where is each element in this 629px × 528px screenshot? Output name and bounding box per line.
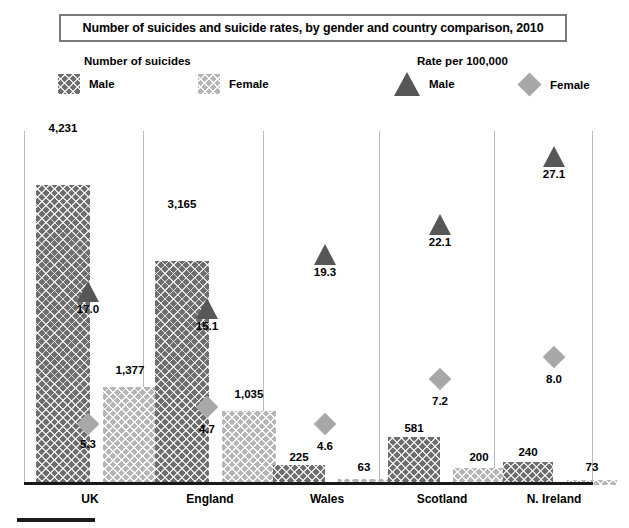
rate-label-male-wales: 19.3 [314, 266, 336, 278]
bar-female-swatch-icon [198, 74, 220, 94]
bar-label-male-scotland: 581 [404, 422, 423, 434]
diamond-female-n-ireland[interactable] [543, 346, 566, 369]
legend-label-rate-male: Male [429, 78, 455, 90]
legend-heading-counts: Number of suicides [84, 55, 191, 67]
rate-label-female-uk: 5.3 [80, 438, 96, 450]
legend-label-count-male: Male [89, 78, 115, 90]
bar-label-female-scotland: 200 [469, 451, 488, 463]
rate-label-male-n-ireland: 27.1 [543, 168, 565, 180]
rate-label-male-england: 15.1 [196, 320, 218, 332]
legend-heading-rates: Rate per 100,000 [417, 55, 508, 67]
rate-label-female-england: 4.7 [199, 423, 215, 435]
triangle-male-n-ireland[interactable] [543, 146, 565, 167]
bar-group-wales: 225 63 19.3 4.6 [264, 131, 379, 485]
legend-label-count-female: Female [229, 78, 269, 90]
legend-item-rate-female[interactable]: Female [518, 72, 590, 97]
triangle-male-wales[interactable] [314, 244, 336, 265]
bar-male-swatch-icon [58, 74, 80, 94]
chart-plot-area: 4,231 1,377 17.0 5.3 3,165 1,035 15.1 4.… [24, 131, 593, 485]
rate-label-male-uk: 17.0 [77, 303, 99, 315]
category-label-england: England [186, 492, 233, 506]
bar-label-male-n-ireland: 240 [518, 446, 537, 458]
triangle-male-uk[interactable] [77, 281, 99, 302]
rate-label-female-wales: 4.6 [317, 440, 333, 452]
rate-label-male-scotland: 22.1 [429, 236, 451, 248]
x-axis-line [24, 482, 593, 485]
bar-label-female-wales: 63 [358, 461, 371, 473]
legend-item-count-male[interactable]: Male [58, 74, 115, 94]
footer-rule [17, 518, 95, 522]
chart-title: Number of suicides and suicide rates, by… [83, 21, 544, 35]
bar-group-england: 3,165 1,035 15.1 4.7 [144, 131, 263, 485]
diamond-marker-icon [517, 72, 541, 96]
bar-label-female-england: 1,035 [235, 388, 264, 400]
triangle-male-england[interactable] [196, 298, 218, 319]
bar-male-scotland[interactable] [388, 437, 440, 485]
legend-item-count-female[interactable]: Female [198, 74, 269, 94]
bar-group-uk: 4,231 1,377 17.0 5.3 [24, 131, 143, 485]
triangle-marker-icon [394, 72, 420, 96]
bar-label-female-n-ireland: 73 [586, 461, 599, 473]
bar-label-male-wales: 225 [289, 451, 308, 463]
bar-label-female-uk: 1,377 [116, 364, 145, 376]
category-label-uk: UK [81, 492, 98, 506]
category-label-n-ireland: N. Ireland [527, 492, 582, 506]
category-label-wales: Wales [310, 492, 344, 506]
bar-label-male-uk: 4,231 [49, 122, 78, 134]
triangle-male-scotland[interactable] [429, 214, 451, 235]
legend-item-rate-male[interactable]: Male [394, 72, 455, 96]
bar-group-scotland: 581 200 22.1 7.2 [380, 131, 494, 485]
bar-male-england[interactable] [155, 261, 209, 485]
chart-title-box: Number of suicides and suicide rates, by… [59, 14, 567, 42]
rate-label-female-n-ireland: 8.0 [546, 373, 562, 385]
bar-group-n-ireland: 240 73 27.1 8.0 [495, 131, 593, 485]
category-label-scotland: Scotland [417, 492, 468, 506]
diamond-female-scotland[interactable] [429, 368, 452, 391]
rate-label-female-scotland: 7.2 [432, 395, 448, 407]
diamond-female-wales[interactable] [314, 413, 337, 436]
legend-label-rate-female: Female [550, 79, 590, 91]
bar-label-male-england: 3,165 [168, 198, 197, 210]
